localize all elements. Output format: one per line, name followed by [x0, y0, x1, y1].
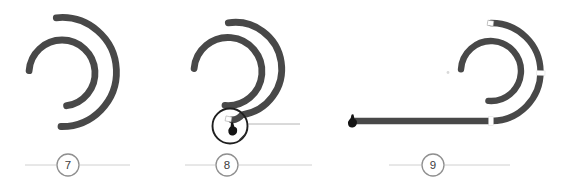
tube-end-cap: [487, 20, 494, 26]
hand-press-icon: [348, 114, 357, 127]
hand-press-icon: [227, 122, 237, 136]
step-9-figure: [348, 20, 545, 127]
coil-inner-arc: [29, 40, 95, 106]
step-badge-9: 9: [389, 154, 510, 176]
step-badge-8: 8: [185, 154, 312, 176]
step-badge-7: 7: [25, 154, 130, 176]
faint-dot: [447, 71, 450, 74]
step-number: 9: [430, 159, 436, 171]
step-number: 8: [224, 159, 230, 171]
detail-zoom-circle: [213, 109, 248, 144]
step-7-figure: [29, 18, 116, 127]
step-number: 7: [65, 159, 71, 171]
tube-end-cap: [225, 116, 232, 122]
tube-joint-marker: [536, 70, 545, 75]
coil-inner-arc: [461, 41, 521, 101]
diagram-canvas: 7 8 9: [0, 0, 569, 190]
coil-outer-arc: [56, 18, 116, 127]
step-8-figure: [194, 22, 300, 143]
coil-inner-arc: [194, 38, 262, 106]
tube-joint-marker: [489, 117, 494, 125]
assembly-instruction-diagram: 7 8 9: [0, 0, 569, 190]
